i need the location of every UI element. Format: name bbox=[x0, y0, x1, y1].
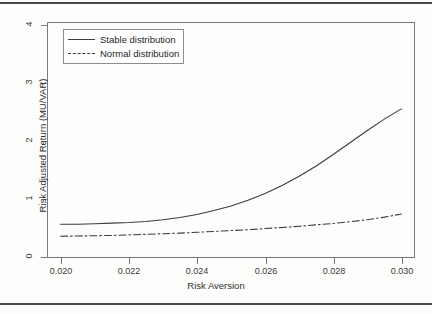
page-rule-top bbox=[0, 2, 432, 4]
x-tick-mark bbox=[197, 258, 198, 264]
x-tick-label: 0.026 bbox=[244, 266, 288, 276]
legend-label: Stable distribution bbox=[100, 33, 176, 47]
figure-canvas: 0 1 2 3 4 0.020 0.022 0.024 0.026 0.028 … bbox=[0, 0, 432, 314]
x-tick-label: 0.024 bbox=[175, 266, 219, 276]
x-tick-mark bbox=[61, 258, 62, 264]
y-axis-title: Risk Adjusted Return (MU/VAR) bbox=[37, 31, 48, 261]
y-tick-mark bbox=[41, 25, 47, 26]
x-tick-label: 0.020 bbox=[39, 266, 83, 276]
x-tick-mark bbox=[129, 258, 130, 264]
series-line-stable-distribution bbox=[61, 109, 402, 224]
legend-box: Stable distribution Normal distribution bbox=[63, 29, 184, 64]
x-tick-mark bbox=[266, 258, 267, 264]
x-tick-label: 0.022 bbox=[107, 266, 151, 276]
legend-entry-stable-distribution: Stable distribution bbox=[68, 33, 182, 47]
x-tick-label: 0.030 bbox=[380, 266, 424, 276]
legend-key-solid bbox=[68, 39, 95, 40]
page-rule-bottom bbox=[0, 303, 432, 305]
x-tick-label: 0.028 bbox=[312, 266, 356, 276]
legend-key-dashdot bbox=[68, 53, 95, 54]
x-axis-title: Risk Aversion bbox=[0, 280, 432, 291]
legend-label: Normal distribution bbox=[100, 47, 179, 61]
x-tick-mark bbox=[402, 258, 403, 264]
series-line-normal-distribution bbox=[61, 214, 402, 236]
x-tick-mark bbox=[334, 258, 335, 264]
y-axis-title-holder: Risk Adjusted Return (MU/VAR) bbox=[12, 0, 26, 280]
legend-entry-normal-distribution: Normal distribution bbox=[68, 47, 182, 61]
